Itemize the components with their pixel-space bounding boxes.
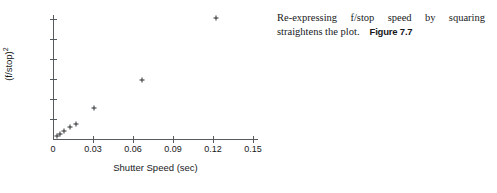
data-point-marker [67,124,72,129]
figure-page: 20040060080010001200 00.030.060.090.120.… [0,0,497,193]
x-tick-label: 0.06 [124,145,142,154]
x-axis-title: Shutter Speed (sec) [53,162,258,173]
figure-caption: Re-expressing f/stop speed by squaring s… [277,11,485,38]
data-point-marker [74,121,79,126]
y-axis-title-exponent: 2 [2,47,9,51]
x-tick-label: 0.12 [204,145,222,154]
scatter-chart: 20040060080010001200 00.030.060.090.120.… [0,0,272,193]
data-point-marker [61,128,66,133]
x-tick-mark [253,136,254,143]
data-point-marker [139,78,144,83]
y-axis-title-base: (f/stop) [3,51,14,81]
figure-number: Figure 7.7 [370,26,413,37]
x-tick-label: 0.15 [244,145,262,154]
y-axis-title: (f/stop)2 [2,34,14,94]
x-axis-line [53,139,258,140]
x-tick-label: 0 [50,145,55,154]
data-point-marker [214,15,219,20]
x-tick-label: 0.03 [84,145,102,154]
plot-area [53,19,253,139]
data-point-marker [92,106,97,111]
x-tick-label: 0.09 [164,145,182,154]
